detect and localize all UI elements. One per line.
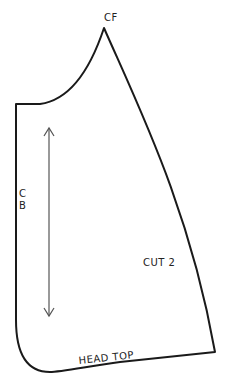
cf-label: CF bbox=[104, 12, 118, 23]
cut-label: CUT 2 bbox=[143, 257, 175, 268]
cb-label-c: C bbox=[19, 188, 26, 199]
grainline-arrow bbox=[44, 128, 54, 316]
pattern-piece bbox=[0, 0, 230, 389]
pattern-outline bbox=[16, 28, 215, 372]
cb-label-b: B bbox=[19, 200, 26, 211]
